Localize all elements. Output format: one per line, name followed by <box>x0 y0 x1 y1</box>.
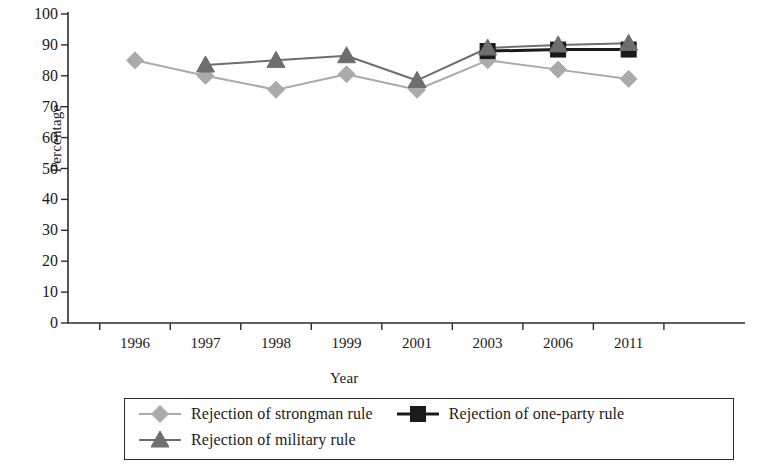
diamond-marker-icon <box>338 66 355 83</box>
legend-entry[interactable]: Rejection of strongman rule <box>137 405 373 423</box>
series-line <box>276 74 347 89</box>
series-line <box>488 60 559 69</box>
series-line <box>206 76 277 90</box>
series-line <box>558 70 629 79</box>
legend-label: Rejection of strongman rule <box>191 405 373 423</box>
legend-entry[interactable]: Rejection of one-party rule <box>395 405 625 423</box>
legend-entry[interactable]: Rejection of military rule <box>137 431 356 449</box>
diamond-marker-icon <box>268 81 285 98</box>
chart-figure: Percentage Year 0102030405060708090100 1… <box>0 0 760 466</box>
square-marker-icon <box>410 407 425 422</box>
diamond-marker-icon <box>620 70 637 87</box>
legend-label: Rejection of one-party rule <box>449 405 625 423</box>
legend-marker-sample <box>137 431 183 449</box>
triangle-marker-icon <box>338 47 356 63</box>
series-line <box>135 60 206 75</box>
chart-legend: Rejection of strongman ruleRejection of … <box>124 398 734 460</box>
series-line <box>206 60 277 65</box>
diamond-marker-icon <box>152 406 169 423</box>
line-chart-plot <box>0 0 760 400</box>
series-line <box>488 45 559 48</box>
legend-row-bottom: Rejection of military rule <box>137 431 378 449</box>
legend-marker-sample <box>395 405 441 423</box>
legend-row-top: Rejection of strongman ruleRejection of … <box>137 405 646 423</box>
legend-marker-sample <box>137 405 183 423</box>
series-line <box>488 50 559 52</box>
legend-label: Rejection of military rule <box>191 431 356 449</box>
series-line <box>276 56 347 61</box>
series-line <box>558 43 629 45</box>
diamond-marker-icon <box>550 61 567 78</box>
diamond-marker-icon <box>126 52 143 69</box>
triangle-marker-icon <box>408 71 426 87</box>
